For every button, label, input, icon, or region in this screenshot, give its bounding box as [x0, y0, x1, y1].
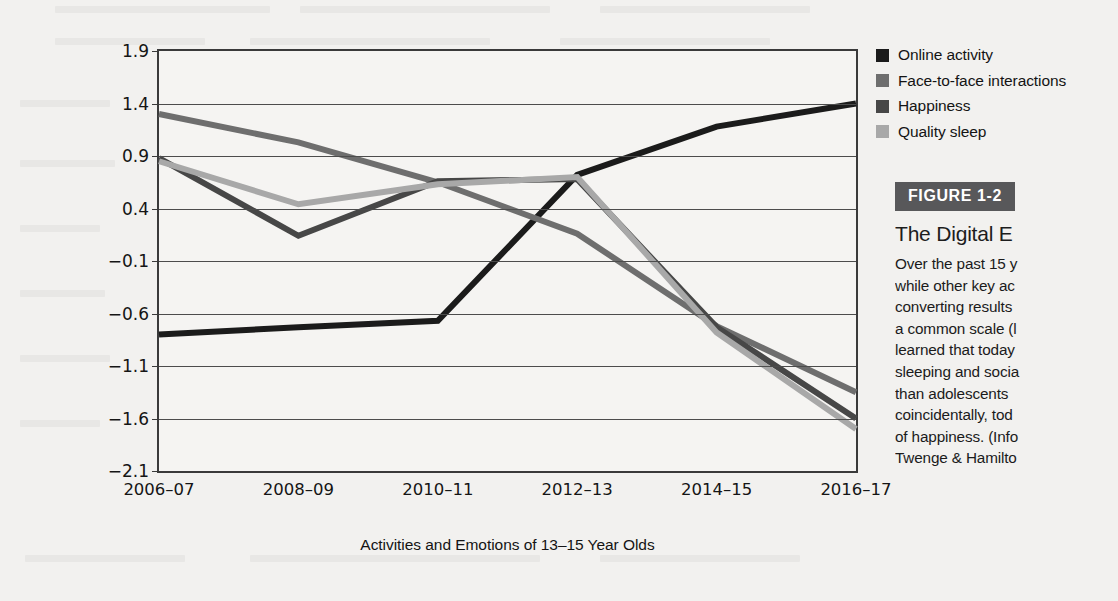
figure-caption-line: Twenge & Hamilto — [895, 447, 1118, 469]
y-axis-tickmark — [152, 156, 159, 157]
legend-swatch-face-to-face-interactions — [876, 74, 889, 87]
y-axis-title-line-1: Average Daily Level of Activity or — [28, 0, 47, 50]
figure-title: The Digital E — [895, 222, 1118, 246]
y-axis-tick-label: −1.1 — [108, 356, 149, 376]
y-axis-tick-label: −0.6 — [108, 304, 149, 324]
x-axis-tick-label: 2008–09 — [263, 480, 334, 499]
legend-item-online-activity: Online activity — [876, 46, 1118, 64]
x-axis-title: Activities and Emotions of 13–15 Year Ol… — [157, 536, 858, 554]
x-axis-tick-label: 2014–15 — [681, 480, 752, 499]
legend-label-online-activity: Online activity — [898, 46, 993, 64]
y-axis-tickmark — [152, 471, 159, 472]
y-axis-tickmark — [152, 261, 159, 262]
gridline — [159, 419, 856, 420]
plot-area: 1.91.40.90.4−0.1−0.6−1.1−1.6−2.12006–072… — [157, 49, 858, 473]
y-axis-title-line-2: Emotion (z-scores) — [47, 0, 66, 50]
y-axis-tick-label: −0.1 — [108, 251, 149, 271]
figure-caption: FIGURE 1-2 The Digital E Over the past 1… — [895, 182, 1118, 469]
series-line-quality-sleep — [159, 161, 856, 429]
gridline — [159, 104, 856, 105]
legend-item-happiness: Happiness — [876, 97, 1118, 115]
x-axis-tick-label: 2016–17 — [820, 480, 891, 499]
figure-caption-line: sleeping and socia — [895, 361, 1118, 383]
figure-caption-line: than adolescents — [895, 383, 1118, 405]
y-axis-tick-label: 0.9 — [122, 146, 149, 166]
gridline — [159, 366, 856, 367]
legend-label-happiness: Happiness — [898, 97, 970, 115]
gridline — [159, 314, 856, 315]
y-axis-tick-label: 1.9 — [122, 41, 149, 61]
figure-caption-line: learned that today — [895, 339, 1118, 361]
figure-1-2: Average Daily Level of Activity or Emoti… — [0, 0, 1118, 601]
y-axis-tick-label: −2.1 — [108, 461, 149, 481]
legend-label-face-to-face-interactions: Face-to-face interactions — [898, 72, 1066, 90]
figure-number-banner: FIGURE 1-2 — [895, 182, 1015, 211]
y-axis-tickmark — [152, 366, 159, 367]
x-axis-tick-label: 2010–11 — [402, 480, 473, 499]
gridline — [159, 156, 856, 157]
legend-swatch-happiness — [876, 100, 889, 113]
series-line-happiness — [159, 158, 856, 418]
x-axis-tick-label: 2006–07 — [123, 480, 194, 499]
legend-item-quality-sleep: Quality sleep — [876, 123, 1118, 141]
x-axis-tick-label: 2012–13 — [542, 480, 613, 499]
legend-label-quality-sleep: Quality sleep — [898, 123, 986, 141]
y-axis-tickmark — [152, 314, 159, 315]
figure-caption-body: Over the past 15 ywhile other key acconv… — [895, 253, 1118, 469]
y-axis-title: Average Daily Level of Activity or Emoti… — [28, 0, 58, 50]
gridline — [159, 209, 856, 210]
figure-caption-line: coincidentally, tod — [895, 404, 1118, 426]
y-axis-tick-label: 1.4 — [122, 94, 149, 114]
y-axis-tick-label: 0.4 — [122, 199, 149, 219]
figure-caption-line: a common scale (l — [895, 318, 1118, 340]
figure-caption-line: while other key ac — [895, 275, 1118, 297]
gridline — [159, 261, 856, 262]
y-axis-tickmark — [152, 209, 159, 210]
figure-caption-line: of happiness. (Info — [895, 426, 1118, 448]
y-axis-tick-label: −1.6 — [108, 409, 149, 429]
chart-legend: Online activity Face-to-face interaction… — [876, 46, 1118, 148]
line-chart: Average Daily Level of Activity or Emoti… — [0, 0, 880, 601]
figure-caption-line: Over the past 15 y — [895, 253, 1118, 275]
y-axis-tickmark — [152, 419, 159, 420]
legend-item-face-to-face-interactions: Face-to-face interactions — [876, 72, 1118, 90]
y-axis-tickmark — [152, 51, 159, 52]
y-axis-tickmark — [152, 104, 159, 105]
legend-swatch-quality-sleep — [876, 125, 889, 138]
figure-caption-line: converting results — [895, 296, 1118, 318]
legend-swatch-online-activity — [876, 49, 889, 62]
